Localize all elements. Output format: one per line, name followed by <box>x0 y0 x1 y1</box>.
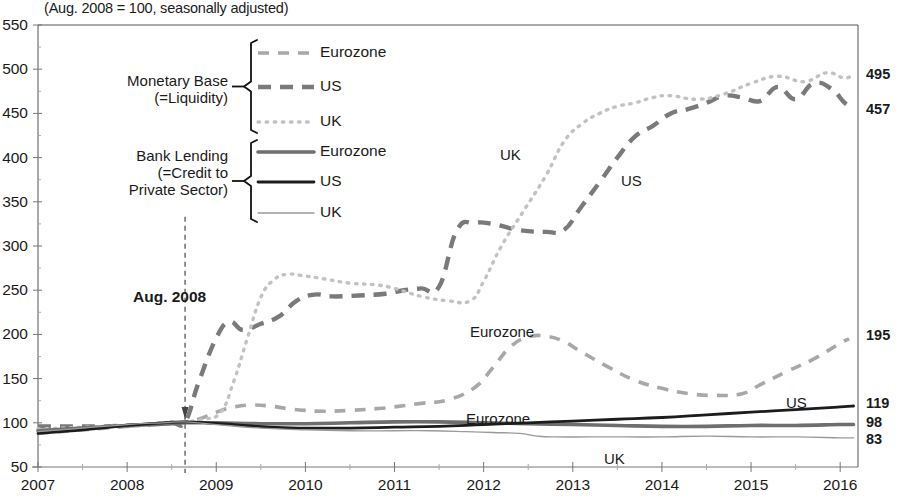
legend-item-label: UK <box>320 203 342 221</box>
legend-item-label: Eurozone <box>320 43 386 61</box>
legend-caption-line: Private Sector) <box>0 181 228 198</box>
legend-brace-bank-lending <box>244 140 257 222</box>
legend-item-label: US <box>320 172 342 190</box>
legend-item-label: UK <box>320 112 342 130</box>
legend-caption-line: (=Liquidity) <box>0 89 228 106</box>
legend-caption-line: Monetary Base <box>0 72 228 89</box>
legend-brace-monetary-base <box>244 40 257 133</box>
legend-caption-line: (=Credit to <box>0 164 228 181</box>
legend-group-caption-bank-lending: Bank Lending(=Credit toPrivate Sector) <box>0 147 228 198</box>
legend-caption-line: Bank Lending <box>0 147 228 164</box>
legend-item-label: US <box>320 77 342 95</box>
chart-root: (Aug. 2008 = 100, seasonally adjusted) 5… <box>0 0 898 498</box>
legend-item-label: Eurozone <box>320 142 386 160</box>
legend-group-caption-monetary-base: Monetary Base(=Liquidity) <box>0 72 228 106</box>
